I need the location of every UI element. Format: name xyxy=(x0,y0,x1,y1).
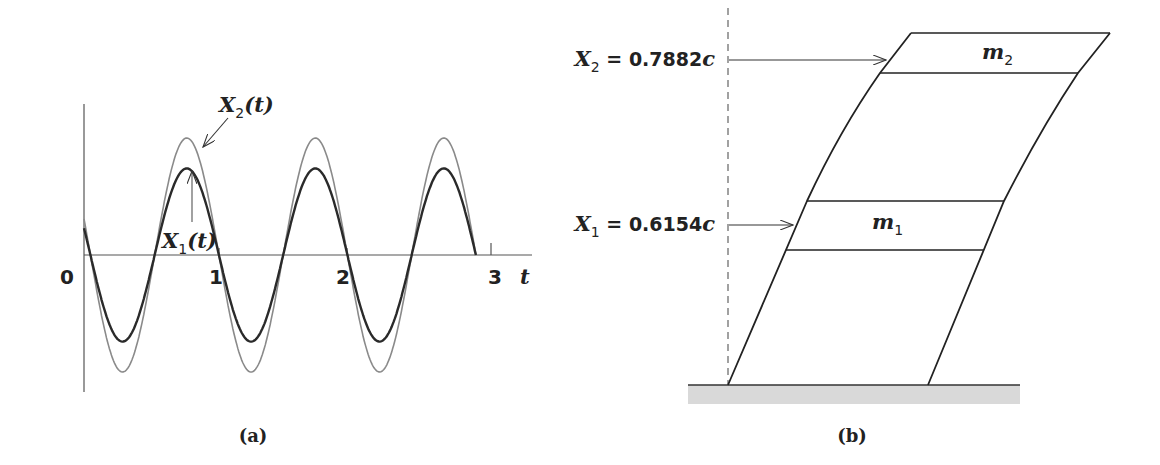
x-axis-label: t xyxy=(520,264,530,289)
svg-text:X1(t): X1(t) xyxy=(160,228,217,257)
mass-m1-label: m1 xyxy=(872,209,903,238)
x2-displacement-label: X2 = 0.7882c xyxy=(573,46,716,75)
x2-annotation: X2(t) xyxy=(203,92,274,147)
svg-text:X2(t): X2(t) xyxy=(217,92,274,121)
origin-label: 0 xyxy=(60,265,74,289)
x-tick-label-3: 3 xyxy=(488,265,502,289)
x-tick-label-1: 1 xyxy=(209,265,223,289)
x-tick-label-2: 2 xyxy=(336,265,350,289)
panel-a-time-history: 0 1 2 3 t X2(t) X1(t) (a) xyxy=(60,92,532,446)
mass-m2-label: m2 xyxy=(982,39,1013,68)
caption-b: (b) xyxy=(837,425,867,446)
x1-displacement-label: X1 = 0.6154c xyxy=(573,211,716,240)
figure-canvas: 0 1 2 3 t X2(t) X1(t) (a) xyxy=(0,0,1160,465)
panel-b-frame-diagram: m2 m1 X2 = 0.7882c X1 = 0.6154c (b) xyxy=(573,8,1110,446)
right-column xyxy=(928,33,1110,385)
caption-a: (a) xyxy=(239,425,268,446)
ground-hatch xyxy=(688,385,1020,404)
x2-pointer-arrow xyxy=(203,118,228,147)
